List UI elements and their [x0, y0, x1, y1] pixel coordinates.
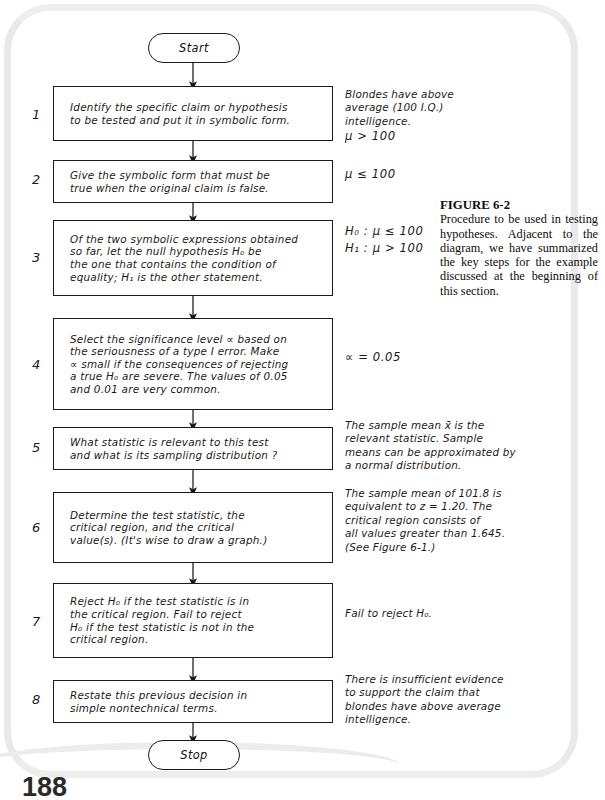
step-annotation-math-4: ∝ = 0.05	[345, 349, 401, 366]
step-text-7: Reject H₀ if the test statistic is in th…	[54, 595, 254, 645]
step-annotation-5: The sample mean x̄ is the relevant stati…	[345, 419, 525, 473]
step-number-1: 1	[32, 107, 40, 122]
step-box-2: Give the symbolic form that must be true…	[53, 160, 333, 203]
step-annotation-6: The sample mean of 101.8 is equivalent t…	[345, 487, 530, 554]
step-annotation-math-1: μ > 100	[345, 128, 396, 145]
step-annotation-8: There is insufficient evidence to suppor…	[345, 673, 530, 727]
step-number-6: 6	[32, 520, 40, 535]
step-box-4: Select the significance level ∝ based on…	[53, 318, 333, 410]
step-annotation-math-2: μ ≤ 100	[345, 166, 396, 183]
step-number-8: 8	[32, 692, 40, 707]
step-box-8: Restate this previous decision in simple…	[53, 680, 333, 723]
terminator-start-label: Start	[179, 41, 209, 55]
step-text-4: Select the significance level ∝ based on…	[54, 333, 288, 396]
step-box-6: Determine the test statistic, the critic…	[53, 492, 333, 563]
step-text-3: Of the two symbolic expressions obtained…	[54, 233, 298, 283]
step-number-3: 3	[32, 250, 40, 265]
step-text-6: Determine the test statistic, the critic…	[54, 509, 267, 547]
step-box-5: What statistic is relevant to this test …	[53, 427, 333, 470]
step-number-4: 4	[32, 357, 40, 372]
figure-caption: FIGURE 6-2 Procedure to be used in testi…	[440, 198, 598, 298]
figure-caption-text: Procedure to be used in testing hypothes…	[440, 212, 598, 297]
step-annotation-math-3: H₀ : μ ≤ 100 H₁ : μ > 100	[345, 223, 423, 257]
terminator-start: Start	[148, 33, 240, 63]
step-box-1: Identify the specific claim or hypothesi…	[53, 86, 333, 141]
step-text-2: Give the symbolic form that must be true…	[54, 169, 270, 194]
step-number-5: 5	[32, 440, 40, 455]
terminator-stop-label: Stop	[180, 748, 208, 762]
step-text-8: Restate this previous decision in simple…	[54, 689, 247, 714]
step-number-2: 2	[32, 172, 40, 187]
figure-title: FIGURE 6-2	[440, 198, 598, 212]
page-number: 188	[22, 772, 67, 800]
step-annotation-7: Fail to reject H₀.	[345, 607, 525, 620]
step-text-1: Identify the specific claim or hypothesi…	[54, 101, 290, 126]
step-annotation-1: Blondes have above average (100 I.Q.) in…	[345, 88, 495, 128]
step-box-7: Reject H₀ if the test statistic is in th…	[53, 583, 333, 658]
step-box-3: Of the two symbolic expressions obtained…	[53, 220, 333, 296]
step-text-5: What statistic is relevant to this test …	[54, 436, 278, 461]
terminator-stop: Stop	[148, 740, 240, 770]
step-number-7: 7	[32, 614, 40, 629]
